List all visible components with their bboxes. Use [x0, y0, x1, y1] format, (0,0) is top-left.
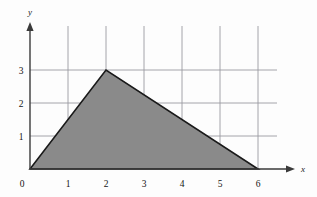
- triangle-area-chart: y x 0 1 2 3 4 5 6 1 2 3: [0, 0, 317, 197]
- x-tick-label-1: 1: [66, 179, 71, 189]
- y-axis-label: y: [27, 7, 32, 17]
- x-tick-label-4: 4: [180, 179, 185, 189]
- y-tick-label-1: 1: [19, 132, 24, 142]
- y-tick-label-2: 2: [19, 99, 24, 109]
- figure-container: y x 0 1 2 3 4 5 6 1 2 3: [0, 0, 317, 197]
- x-tick-label-2: 2: [104, 179, 109, 189]
- x-tick-label-0: 0: [20, 179, 25, 189]
- x-tick-label-6: 6: [256, 179, 261, 189]
- y-tick-label-3: 3: [19, 66, 24, 76]
- x-axis-label: x: [300, 164, 305, 174]
- x-tick-label-5: 5: [218, 179, 223, 189]
- x-tick-label-3: 3: [142, 179, 147, 189]
